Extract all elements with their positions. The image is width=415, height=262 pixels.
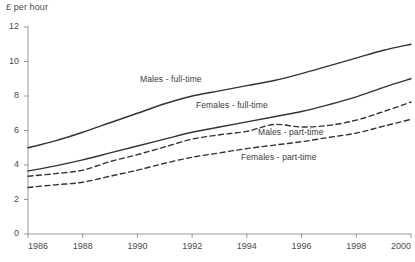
y-axis-tick-label: 8 — [3, 90, 19, 100]
series-line-2 — [28, 102, 411, 176]
series-line-1 — [28, 79, 411, 171]
series-label-0: Males - full-time — [140, 74, 202, 84]
y-axis-tick-label: 6 — [3, 125, 19, 135]
chart-plot-area — [0, 0, 415, 262]
x-axis-tick-label: 1990 — [127, 241, 147, 251]
y-axis-tick-label: 12 — [3, 21, 19, 31]
x-axis-tick-label: 1992 — [182, 241, 202, 251]
y-axis-tick-label: 0 — [3, 228, 19, 238]
x-axis-tick-label: 1986 — [28, 241, 48, 251]
x-axis-tick-label: 1988 — [73, 241, 93, 251]
series-lines-group — [28, 44, 411, 187]
y-axis-tick-label: 4 — [3, 159, 19, 169]
y-axis-tick-label: 10 — [3, 56, 19, 66]
series-line-3 — [28, 119, 411, 187]
x-axis-tick-label: 2000 — [391, 241, 411, 251]
series-line-0 — [28, 44, 411, 148]
chart-container: £ per hour 024681012 1986198819901992199… — [0, 0, 415, 262]
x-axis-tick-label: 1996 — [292, 241, 312, 251]
x-axis-tick-label: 1998 — [346, 241, 366, 251]
series-label-3: Females - part-time — [241, 152, 317, 162]
x-axis-tick-label: 1994 — [237, 241, 257, 251]
series-label-1: Females - full-time — [196, 100, 268, 110]
series-label-2: Males - part-time — [258, 127, 323, 137]
y-axis-tick-label: 2 — [3, 194, 19, 204]
